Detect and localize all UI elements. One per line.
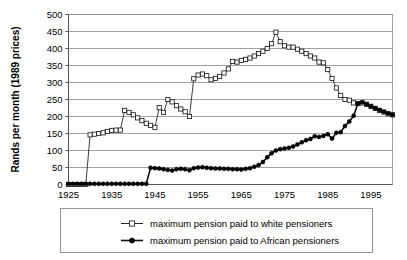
data-point-marker (92, 182, 96, 186)
y-tick-label: 150 (47, 128, 63, 139)
data-point-marker (136, 116, 140, 120)
y-tick-label: 100 (47, 145, 63, 156)
x-tick-label: 1935 (101, 189, 122, 200)
data-point-marker (170, 100, 174, 104)
x-tick-label: 1955 (188, 189, 209, 200)
data-point-marker (123, 108, 127, 112)
data-point-marker (166, 168, 170, 172)
data-point-marker (75, 182, 79, 186)
data-point-marker (304, 52, 308, 56)
data-point-marker (339, 93, 343, 97)
data-point-marker (283, 146, 287, 150)
data-point-marker (140, 118, 144, 122)
series-path (69, 102, 393, 184)
data-point-marker (295, 142, 299, 146)
data-point-marker (235, 60, 239, 64)
data-point-marker (136, 182, 140, 186)
data-point-marker (153, 125, 157, 129)
data-point-marker (67, 182, 71, 186)
x-axis-tick-labels: 19251935194519551965197519851995 (58, 189, 382, 200)
data-point-marker (295, 47, 299, 51)
data-point-marker (239, 58, 243, 62)
chart-container: 050100150200250300350400450500 192519351… (0, 0, 407, 260)
data-point-marker (213, 76, 217, 80)
data-point-marker (248, 56, 252, 60)
data-point-marker (105, 182, 109, 186)
data-point-marker (378, 108, 382, 112)
data-point-marker (110, 128, 114, 132)
data-point-marker (313, 134, 317, 138)
data-point-marker (270, 151, 274, 155)
x-tick-label: 1965 (231, 189, 252, 200)
data-point-marker (244, 167, 248, 171)
data-point-marker (71, 182, 75, 186)
y-tick-label: 350 (47, 60, 63, 71)
x-tick-label: 1985 (317, 189, 338, 200)
data-point-marker (291, 45, 295, 49)
data-point-marker (360, 100, 364, 104)
data-point-marker (149, 166, 153, 170)
data-point-marker (257, 163, 261, 167)
data-point-marker (321, 61, 325, 65)
data-point-marker (256, 52, 260, 56)
data-point-marker (200, 165, 204, 169)
data-point-marker (330, 76, 334, 80)
data-point-marker (347, 98, 351, 102)
data-point-marker (127, 182, 131, 186)
y-tick-label: 450 (47, 26, 63, 37)
pension-line-chart: 050100150200250300350400450500 192519351… (0, 0, 407, 260)
data-point-marker (218, 167, 222, 171)
x-tick-label: 1995 (360, 189, 381, 200)
legend-label: maximum pension paid to white pensioners (150, 218, 332, 229)
series-white-pensioners (66, 30, 394, 187)
data-point-marker (265, 155, 269, 159)
data-point-marker (131, 113, 135, 117)
chart-legend[interactable]: maximum pension paid to white pensioners… (61, 209, 373, 253)
data-point-marker (200, 72, 204, 76)
data-point-marker (356, 102, 360, 106)
data-point-marker (317, 60, 321, 64)
data-point-marker (291, 144, 295, 148)
data-point-marker (97, 182, 101, 186)
x-tick-label: 1925 (58, 189, 79, 200)
x-tick-label: 1975 (274, 189, 295, 200)
data-point-marker (239, 168, 243, 172)
data-point-marker (114, 128, 118, 132)
data-point-marker (304, 138, 308, 142)
data-point-marker (269, 42, 273, 46)
data-point-marker (218, 74, 222, 78)
data-point-marker (131, 182, 135, 186)
data-point-marker (252, 165, 256, 169)
data-point-marker (92, 132, 96, 136)
data-point-marker (369, 104, 373, 108)
data-point-marker (391, 113, 395, 117)
data-point-marker (157, 167, 161, 171)
data-point-marker (343, 97, 347, 101)
data-point-marker (334, 86, 338, 90)
legend-item[interactable]: maximum pension paid to African pensione… (121, 235, 339, 246)
x-tick-label: 1945 (144, 189, 165, 200)
data-point-marker (97, 131, 101, 135)
data-point-marker (326, 132, 330, 136)
y-tick-label: 300 (47, 77, 63, 88)
data-point-marker (300, 49, 304, 53)
data-point-marker (343, 124, 347, 128)
data-point-marker (187, 114, 191, 118)
legend-label: maximum pension paid to African pensione… (150, 235, 339, 246)
y-tick-label: 200 (47, 111, 63, 122)
data-point-marker (386, 111, 390, 115)
data-point-marker (274, 30, 278, 34)
data-point-marker (205, 166, 209, 170)
legend-item[interactable]: maximum pension paid to white pensioners (121, 218, 332, 229)
data-point-marker (166, 97, 170, 101)
data-point-marker (105, 129, 109, 133)
y-tick-label: 400 (47, 43, 63, 54)
data-point-marker (88, 133, 92, 137)
data-point-marker (222, 167, 226, 171)
data-point-marker (278, 147, 282, 151)
data-point-marker (282, 44, 286, 48)
data-point-marker (373, 106, 377, 110)
data-point-marker (153, 166, 157, 170)
data-point-marker (161, 110, 165, 114)
data-point-marker (365, 102, 369, 106)
